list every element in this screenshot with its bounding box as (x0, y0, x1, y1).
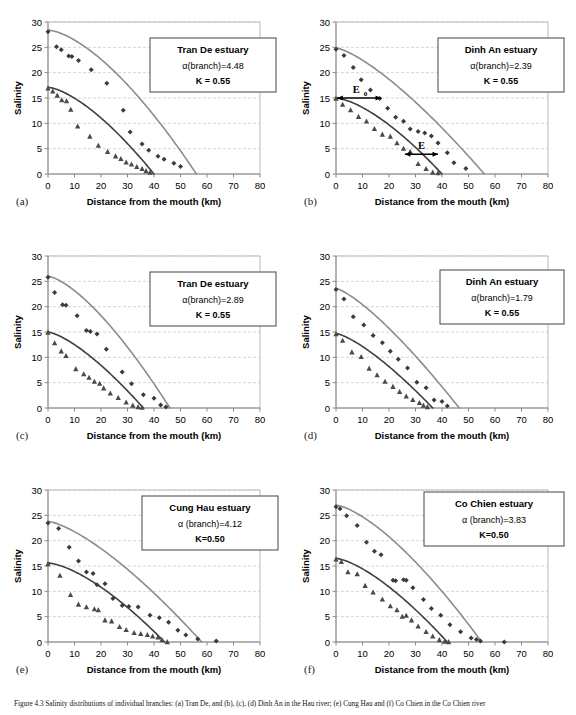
x-tick-label: 20 (384, 414, 395, 425)
x-tick-label: 0 (45, 180, 50, 191)
x-tick-label: 50 (463, 180, 474, 191)
y-tick-label: 0 (325, 403, 330, 414)
panel-b: 01020304050607080051015202530Distance fr… (288, 0, 576, 238)
x-tick-label: 70 (228, 414, 239, 425)
x-tick-label: 50 (175, 648, 186, 659)
y-tick-label: 5 (325, 377, 330, 388)
x-tick-label: 70 (228, 648, 239, 659)
legend-k: K=0.50 (195, 534, 224, 544)
panel-e: 01020304050607080051015202530Distance fr… (0, 468, 288, 706)
y-tick-label: 5 (37, 377, 42, 388)
panel-f: 01020304050607080051015202530Distance fr… (288, 468, 576, 706)
x-tick-label: 10 (357, 648, 368, 659)
legend-title: Dinh An estuary (466, 276, 539, 287)
y-tick-label: 10 (31, 118, 42, 129)
y-tick-label: 20 (319, 67, 330, 78)
panel-d: 01020304050607080051015202530Distance fr… (288, 234, 576, 472)
y-tick-label: 20 (31, 535, 42, 546)
y-tick-label: 15 (31, 561, 42, 572)
y-tick-label: 30 (31, 485, 42, 496)
x-tick-label: 60 (202, 648, 213, 659)
y-tick-label: 20 (319, 535, 330, 546)
x-tick-label: 60 (202, 180, 213, 191)
x-tick-label: 80 (543, 180, 554, 191)
y-tick-label: 15 (319, 93, 330, 104)
x-tick-label: 20 (96, 414, 107, 425)
E-arrow-label: E (418, 140, 425, 151)
x-axis-title: Distance from the mouth (km) (375, 196, 510, 207)
legend-k: K = 0.55 (484, 76, 518, 86)
x-tick-label: 20 (96, 648, 107, 659)
panel-a: 01020304050607080051015202530Distance fr… (0, 0, 288, 238)
x-tick-label: 80 (255, 414, 266, 425)
panel-letter-c: (c) (16, 429, 29, 442)
y-axis-title: Salinity (12, 80, 23, 115)
panel-letter-a: (a) (16, 195, 29, 208)
x-tick-label: 50 (175, 180, 186, 191)
legend-box-f: Co Chien estuaryα (branch)=3.83K=0.50 (424, 492, 564, 546)
y-tick-label: 10 (31, 586, 42, 597)
x-tick-label: 80 (255, 648, 266, 659)
panel-letter-b: (b) (304, 195, 317, 208)
x-tick-label: 40 (437, 648, 448, 659)
figure-caption: Figure 4.3 Salinity distributions of ind… (14, 700, 562, 709)
legend-title: Co Chien estuary (455, 498, 534, 509)
x-tick-label: 0 (333, 648, 338, 659)
y-tick-label: 5 (37, 611, 42, 622)
y-axis-title: Salinity (300, 314, 311, 349)
x-tick-label: 10 (357, 180, 368, 191)
legend-box-e: Cung Hau estuaryα (branch)=4.12K=0.50 (142, 496, 278, 550)
E0-arrow-subscript: 0 (364, 90, 368, 98)
x-tick-label: 20 (384, 180, 395, 191)
y-tick-label: 0 (37, 403, 42, 414)
y-tick-label: 0 (37, 637, 42, 648)
legend-alpha: α(branch)=1.79 (471, 293, 533, 303)
legend-title: Cung Hau estuary (169, 502, 251, 513)
y-tick-label: 10 (319, 352, 330, 363)
x-tick-label: 70 (228, 180, 239, 191)
y-tick-label: 0 (37, 169, 42, 180)
y-tick-label: 5 (325, 611, 330, 622)
x-tick-label: 80 (255, 180, 266, 191)
x-tick-label: 10 (69, 648, 80, 659)
x-tick-label: 70 (516, 180, 527, 191)
y-tick-label: 30 (31, 251, 42, 262)
x-tick-label: 0 (45, 414, 50, 425)
x-tick-label: 40 (437, 180, 448, 191)
x-tick-label: 30 (410, 414, 421, 425)
E0-arrow-label: E (353, 84, 360, 95)
legend-alpha: α(branch)=2.89 (182, 295, 244, 305)
x-tick-label: 30 (410, 648, 421, 659)
panel-c: 01020304050607080051015202530Distance fr… (0, 234, 288, 472)
figure-salinity-distributions: 01020304050607080051015202530Distance fr… (0, 0, 576, 715)
x-axis-title: Distance from the mouth (km) (87, 196, 222, 207)
y-tick-label: 5 (325, 143, 330, 154)
legend-box-d: Dinh An estuaryα(branch)=1.79K = 0.55 (440, 270, 564, 324)
y-tick-label: 25 (31, 510, 42, 521)
x-tick-label: 70 (516, 414, 527, 425)
y-tick-label: 20 (31, 301, 42, 312)
x-tick-label: 50 (175, 414, 186, 425)
legend-alpha: α(branch)=2.39 (470, 61, 532, 71)
y-tick-label: 25 (31, 42, 42, 53)
legend-alpha: α (branch)=3.83 (462, 515, 526, 525)
x-tick-label: 40 (149, 414, 160, 425)
x-tick-label: 60 (202, 414, 213, 425)
panel-letter-f: (f) (304, 663, 315, 676)
legend-box-b: Dinh An estuaryα(branch)=2.39K = 0.55 (438, 38, 564, 92)
legend-k: K = 0.55 (196, 310, 230, 320)
x-tick-label: 20 (384, 648, 395, 659)
panel-letter-e: (e) (16, 663, 29, 676)
x-tick-label: 70 (516, 648, 527, 659)
legend-k: K = 0.55 (485, 308, 519, 318)
y-tick-label: 30 (319, 17, 330, 28)
legend-alpha: α(branch)=4.48 (182, 61, 244, 71)
y-tick-label: 25 (319, 42, 330, 53)
x-tick-label: 60 (490, 414, 501, 425)
x-tick-label: 80 (543, 648, 554, 659)
y-tick-label: 30 (319, 251, 330, 262)
y-tick-label: 15 (319, 561, 330, 572)
x-axis-title: Distance from the mouth (km) (87, 664, 222, 675)
y-tick-label: 25 (31, 276, 42, 287)
x-tick-label: 50 (463, 414, 474, 425)
